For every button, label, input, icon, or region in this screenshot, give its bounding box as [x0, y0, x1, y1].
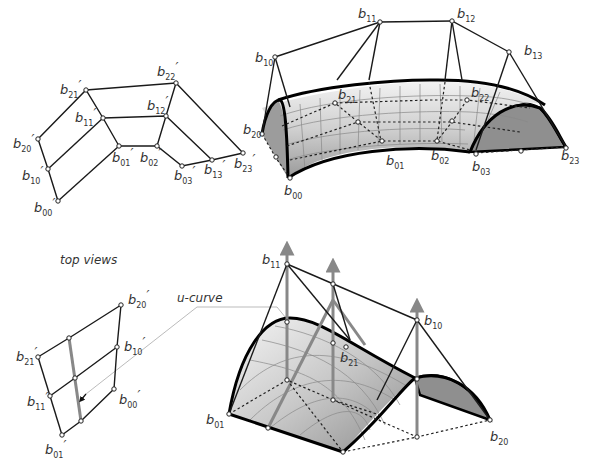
label-b02p: b02′	[140, 145, 161, 168]
label-b11: b11	[358, 6, 376, 24]
bottom-left-labels: b20′ b21′ b10′ b11′ b00′ b01′	[16, 287, 149, 460]
label-b20p-bottom: b20′	[128, 287, 149, 310]
bottom-left-control-net	[36, 303, 123, 437]
top-left-control-net	[36, 81, 245, 203]
label-b11-bottom: b11	[262, 252, 280, 270]
label-b12p: b12′	[147, 93, 168, 116]
label-b23: b23	[561, 148, 579, 166]
label-b11p-bottom: b11′	[27, 389, 48, 412]
label-b00p: b00′	[34, 195, 55, 218]
label-b10p-bottom: b10′	[124, 334, 145, 357]
label-b13: b13	[524, 43, 542, 61]
label-b03: b03	[472, 159, 490, 177]
label-b10-bottom: b10	[424, 313, 442, 331]
label-b21p: b21′	[60, 77, 81, 100]
top-left-labels: b21′ b22′ b11′ b12′ b20′ b10′ b00′ b01′ …	[13, 59, 255, 218]
label-b10p: b10′	[22, 163, 43, 186]
caption-u-curve: u-curve	[177, 291, 223, 305]
label-b20-bottom: b20	[490, 429, 508, 447]
caption-top-views: top views	[60, 253, 117, 267]
label-b01-bottom: b01	[206, 412, 224, 430]
label-b01p-bottom: b01′	[45, 437, 66, 460]
label-b01p: b01′	[112, 145, 133, 168]
top-right-surface	[260, 19, 568, 180]
label-b20p: b20′	[13, 131, 34, 154]
label-b22p: b22′	[157, 59, 178, 82]
label-b01: b01	[386, 153, 404, 171]
label-b11p: b11′	[75, 105, 96, 128]
label-b00p-bottom: b00′	[119, 387, 140, 410]
label-b00: b00	[284, 183, 302, 201]
label-b12: b12	[457, 6, 475, 24]
bottom-right-surface	[227, 248, 492, 454]
label-b10: b10	[255, 50, 273, 68]
bezier-surface-diagram: b21′ b22′ b11′ b12′ b20′ b10′ b00′ b01′ …	[0, 0, 591, 466]
label-b03p: b03′	[174, 163, 195, 186]
label-b21p-bottom: b21′	[16, 344, 37, 367]
label-b20: b20	[243, 122, 261, 140]
